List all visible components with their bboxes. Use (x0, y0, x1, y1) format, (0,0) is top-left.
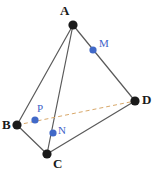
vertex-dot-group (12, 20, 139, 158)
vertex-label-b: B (2, 118, 11, 131)
marked-point-label-m: M (99, 38, 109, 49)
vertex-dot-d (130, 96, 139, 105)
vertex-dot-a (68, 20, 77, 29)
marked-point-dot-p (31, 116, 38, 123)
vertex-label-d: D (142, 93, 151, 106)
edge-a-b (17, 25, 73, 125)
vertex-label-a: A (60, 4, 69, 17)
solid-edge-group (17, 25, 135, 154)
geometry-canvas (0, 0, 156, 174)
marked-point-label-p: P (37, 103, 43, 114)
tetrahedron-figure: ABCD MNP (0, 0, 156, 174)
vertex-dot-c (42, 149, 51, 158)
vertex-dot-b (12, 120, 21, 129)
marked-point-dot-m (89, 46, 96, 53)
vertex-label-c: C (53, 157, 62, 170)
marked-point-dot-n (49, 129, 56, 136)
edge-b-c (17, 125, 47, 154)
marked-point-label-n: N (58, 125, 66, 136)
